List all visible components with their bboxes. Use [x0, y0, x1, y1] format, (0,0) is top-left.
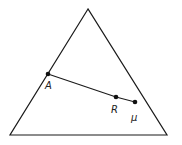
- segment-a-r: [48, 74, 116, 97]
- simplex-diagram: A R μ: [0, 0, 182, 145]
- triangle-outline: [10, 9, 167, 135]
- label-a: A: [44, 80, 52, 91]
- segment-r-mu: [116, 97, 135, 102]
- label-r: R: [111, 104, 118, 115]
- point-mu: [133, 100, 138, 105]
- label-mu: μ: [130, 112, 137, 123]
- point-r: [114, 95, 119, 100]
- point-a: [46, 72, 51, 77]
